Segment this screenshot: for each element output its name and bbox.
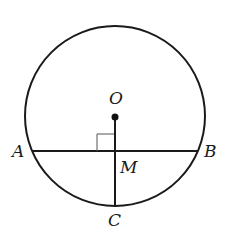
circle-diagram: O A B M C (0, 0, 229, 229)
label-a: A (10, 141, 24, 161)
label-b: B (203, 141, 217, 161)
center-point-o (112, 114, 119, 121)
label-c: C (108, 210, 121, 229)
right-angle-marker (97, 134, 114, 151)
label-m: M (119, 157, 138, 177)
label-o: O (109, 88, 123, 108)
